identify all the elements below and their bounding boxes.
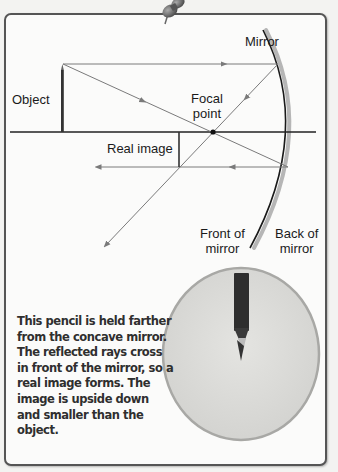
caption-line: This pencil is held farther xyxy=(17,314,167,330)
label-focal-point: Focal point xyxy=(191,91,223,121)
focal-line-1: Focal xyxy=(191,91,223,106)
label-object: Object xyxy=(12,92,50,107)
pushpin-icon xyxy=(160,0,186,24)
caption-line: from the concave mirror. xyxy=(17,330,167,346)
back-line-1: Back of xyxy=(275,226,318,241)
focal-point-dot xyxy=(210,129,215,134)
front-line-2: mirror xyxy=(200,241,245,256)
mirror-shade xyxy=(254,30,289,248)
caption-line: The reflected rays cross xyxy=(17,345,167,361)
label-back-of-mirror: Back of mirror xyxy=(275,226,318,256)
caption-line: and smaller than the xyxy=(17,408,167,424)
label-mirror: Mirror xyxy=(245,34,279,49)
front-line-1: Front of xyxy=(200,226,245,241)
caption-line: in front of the mirror, so a xyxy=(17,361,167,377)
caption-line: object. xyxy=(17,423,167,439)
caption-line: image is upside down xyxy=(17,392,167,408)
pencil-object-icon xyxy=(61,64,64,132)
caption-line: real image forms. The xyxy=(17,376,167,392)
caption-text: This pencil is held farther from the con… xyxy=(17,314,167,439)
label-front-of-mirror: Front of mirror xyxy=(200,226,245,256)
label-real-image: Real image xyxy=(107,141,173,156)
focal-line-2: point xyxy=(191,106,223,121)
pencil-reflection-icon xyxy=(163,268,319,440)
back-line-2: mirror xyxy=(275,241,318,256)
